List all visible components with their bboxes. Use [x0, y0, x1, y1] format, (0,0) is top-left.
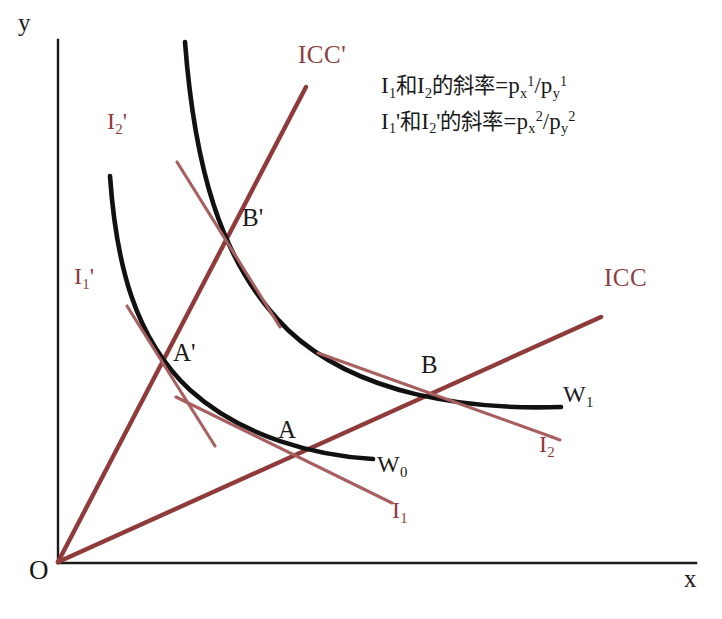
ann2-num-sup: 2	[535, 108, 542, 124]
budget-label-I2-base: I	[539, 431, 547, 457]
icc-lower-label: ICC	[604, 265, 647, 290]
budget-label-I2p-base: I	[107, 108, 115, 134]
budget-label-I1: I1	[392, 498, 408, 526]
ann2-cjk-slope: 的斜率	[440, 109, 503, 134]
ann1-den-base: p	[541, 73, 553, 98]
ann1-den-sub: y	[552, 85, 559, 101]
ann2-den-sup: 2	[568, 108, 575, 124]
ann1-I2-base: I	[417, 73, 425, 98]
budget-label-I2-subscript: 2	[547, 444, 555, 460]
slope-annotation-line-2: I1'和I2'的斜率=px2/py2	[381, 104, 575, 140]
curve-label-w0-subscript: 0	[400, 464, 408, 480]
ann1-num-base: p	[508, 73, 520, 98]
ann2-num-base: p	[516, 109, 528, 134]
axes-group	[58, 40, 696, 563]
diagram-vector-layer	[0, 0, 722, 619]
point-label-b-prime: B'	[242, 205, 263, 230]
ann1-den-sup: 1	[560, 73, 567, 89]
budget-label-I2-prime: I2'	[107, 109, 127, 137]
point-label-a: A	[278, 417, 296, 442]
ann2-I2-base: I	[421, 109, 429, 134]
ann2-den-base: p	[549, 109, 561, 134]
slope-annotation: I1和I2的斜率=px1/py1 I1'和I2'的斜率=px2/py2	[381, 68, 575, 139]
budget-label-I2p-prime: '	[123, 108, 127, 134]
curve-label-w0-base: W	[377, 451, 400, 477]
origin-label: O	[29, 557, 49, 584]
x-axis-label: x	[684, 566, 697, 591]
ann2-equals: =	[503, 109, 516, 134]
budget-label-I1-prime: I1'	[74, 264, 94, 292]
y-axis-label: y	[18, 10, 31, 35]
ann2-cjk-and: 和	[400, 109, 421, 134]
curve-label-w1-base: W	[563, 381, 586, 407]
point-label-b: B	[421, 352, 438, 377]
curve-label-w1: W1	[563, 382, 593, 410]
budget-line-I1-prime	[127, 306, 215, 446]
icc-lower-line	[58, 317, 601, 562]
icc-upper-line	[58, 87, 306, 562]
ann2-I-base: I	[381, 109, 389, 134]
ann1-cjk-slope: 的斜率	[432, 73, 495, 98]
budget-label-I1p-prime: '	[90, 263, 94, 289]
slope-annotation-line-1: I1和I2的斜率=px1/py1	[381, 68, 575, 104]
ann2-den-sub: y	[561, 120, 568, 136]
budget-label-I1p-subscript: 1	[82, 276, 90, 292]
ann1-I-base: I	[381, 73, 389, 98]
ann1-I-sub: 1	[389, 85, 396, 101]
ann1-cjk-and: 和	[396, 73, 417, 98]
budget-label-I2: I2	[539, 432, 555, 460]
budget-label-I1-base: I	[392, 497, 400, 523]
ann2-I-sub: 1	[389, 120, 396, 136]
icc-upper-label: ICC'	[298, 42, 346, 67]
budget-label-I2p-subscript: 2	[115, 121, 123, 137]
curve-label-w0: W0	[377, 452, 407, 480]
budget-lines-group	[127, 162, 552, 503]
ann1-equals: =	[495, 73, 508, 98]
curve-label-w1-subscript: 1	[586, 394, 594, 410]
point-label-a-prime: A'	[173, 340, 196, 365]
diagram-canvas: y x O A B A' B' W0 W1 ICC' ICC I1 I2 I1'…	[0, 0, 722, 619]
budget-label-I1-subscript: 1	[400, 510, 408, 526]
budget-label-I1p-base: I	[74, 263, 82, 289]
budget-line-I1	[176, 397, 392, 503]
ann1-num-sub: x	[520, 85, 527, 101]
